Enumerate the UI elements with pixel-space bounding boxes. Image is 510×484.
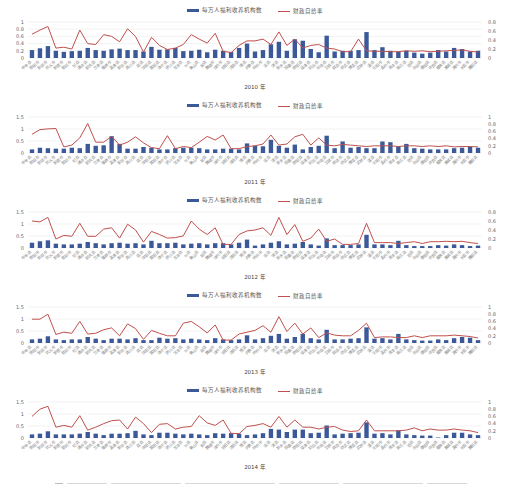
combo-chart: 00.511.500.20.40.60.81中牟县荥阳市新郑市巩义市新密市登封市…	[0, 285, 510, 373]
svg-text:0.6: 0.6	[488, 128, 496, 134]
svg-text:0.6: 0.6	[16, 33, 24, 39]
svg-text:1: 1	[21, 19, 24, 25]
year-label: 2014 年	[0, 463, 510, 471]
svg-text:0.2: 0.2	[488, 333, 496, 339]
svg-text:浚县: 浚县	[262, 343, 272, 353]
svg-text:0: 0	[21, 245, 24, 251]
svg-text:0: 0	[21, 435, 24, 441]
combo-chart: 00.20.40.60.8100.20.40.60.8中牟县荥阳市新郑市巩义市新…	[0, 0, 510, 88]
svg-text:1.5: 1.5	[16, 114, 24, 120]
svg-text:0.5: 0.5	[16, 138, 24, 144]
chart-panel-2010: 每万人福利收养机构数财政自给率00.20.40.60.8100.20.40.60…	[0, 0, 510, 95]
svg-text:0.4: 0.4	[488, 420, 496, 426]
year-label: 2013 年	[0, 368, 510, 376]
year-label: 2012 年	[0, 273, 510, 281]
svg-text:1: 1	[488, 114, 491, 120]
svg-text:0.6: 0.6	[488, 318, 496, 324]
svg-text:1: 1	[21, 316, 24, 322]
svg-text:1: 1	[488, 399, 491, 405]
svg-text:1.5: 1.5	[16, 209, 24, 215]
svg-text:0.4: 0.4	[488, 37, 496, 43]
svg-text:1: 1	[21, 411, 24, 417]
svg-text:0: 0	[488, 340, 491, 346]
svg-text:0.4: 0.4	[488, 135, 496, 141]
svg-text:0: 0	[21, 55, 24, 61]
svg-text:0: 0	[488, 435, 491, 441]
svg-text:0.4: 0.4	[488, 325, 496, 331]
svg-text:浚县: 浚县	[262, 438, 272, 448]
combo-chart: 00.511.500.20.40.60.8中牟县荥阳市新郑市巩义市新密市登封市杞…	[0, 190, 510, 278]
svg-text:1.5: 1.5	[16, 304, 24, 310]
svg-text:0.8: 0.8	[16, 26, 24, 32]
svg-text:0.6: 0.6	[488, 413, 496, 419]
svg-text:0: 0	[488, 150, 491, 156]
svg-text:0.2: 0.2	[488, 143, 496, 149]
svg-text:0.2: 0.2	[16, 48, 24, 54]
svg-text:0: 0	[21, 150, 24, 156]
svg-text:0.5: 0.5	[16, 233, 24, 239]
svg-text:1: 1	[21, 221, 24, 227]
figure-caption-redacted	[55, 474, 475, 478]
svg-text:0.8: 0.8	[488, 121, 496, 127]
svg-text:0.2: 0.2	[488, 46, 496, 52]
svg-text:0: 0	[488, 245, 491, 251]
svg-text:0.6: 0.6	[488, 218, 496, 224]
svg-text:0.8: 0.8	[488, 19, 496, 25]
svg-text:0.4: 0.4	[16, 40, 24, 46]
chart-panel-2013: 每万人福利收养机构数财政自给率00.511.500.20.40.60.81中牟县…	[0, 285, 510, 380]
combo-chart: 00.511.500.20.40.60.81中牟县荥阳市新郑市巩义市新密市登封市…	[0, 380, 510, 468]
svg-text:0.8: 0.8	[488, 406, 496, 412]
svg-text:0.2: 0.2	[488, 428, 496, 434]
svg-text:0.5: 0.5	[16, 423, 24, 429]
svg-text:浚县: 浚县	[262, 153, 272, 163]
svg-text:0.2: 0.2	[488, 236, 496, 242]
chart-panel-2011: 每万人福利收养机构数财政自给率00.511.500.20.40.60.81中牟县…	[0, 95, 510, 190]
svg-text:1: 1	[21, 126, 24, 132]
svg-text:浚县: 浚县	[262, 248, 272, 258]
year-label: 2011 年	[0, 178, 510, 186]
svg-text:0.5: 0.5	[16, 328, 24, 334]
chart-panel-2012: 每万人福利收养机构数财政自给率00.511.500.20.40.60.8中牟县荥…	[0, 190, 510, 285]
svg-text:0.8: 0.8	[488, 311, 496, 317]
combo-chart: 00.511.500.20.40.60.81中牟县荥阳市新郑市巩义市新密市登封市…	[0, 95, 510, 183]
svg-text:浚县: 浚县	[262, 58, 272, 68]
svg-text:0: 0	[21, 340, 24, 346]
svg-text:0: 0	[488, 55, 491, 61]
chart-panel-2014: 每万人福利收养机构数财政自给率00.511.500.20.40.60.81中牟县…	[0, 380, 510, 475]
svg-text:0.4: 0.4	[488, 227, 496, 233]
svg-text:0.6: 0.6	[488, 28, 496, 34]
svg-text:1: 1	[488, 304, 491, 310]
svg-text:1.5: 1.5	[16, 399, 24, 405]
svg-text:0.8: 0.8	[488, 209, 496, 215]
year-label: 2010 年	[0, 83, 510, 91]
